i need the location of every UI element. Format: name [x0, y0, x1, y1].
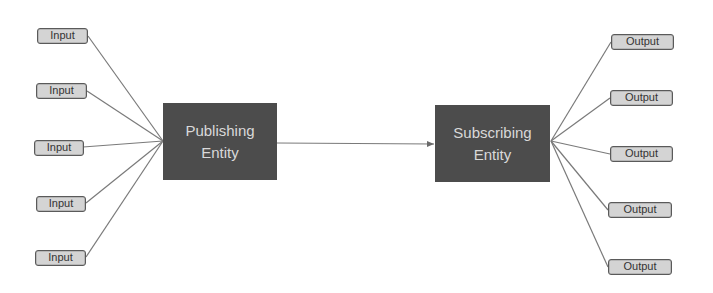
output-node-2: Output	[610, 90, 673, 106]
input-node-1: Input	[37, 28, 88, 44]
subscribing-entity: Subscribing Entity	[435, 105, 550, 182]
input-node-4: Input	[36, 196, 86, 212]
input-label: Input	[48, 251, 72, 263]
output-node-5: Output	[608, 259, 672, 275]
output-connector	[551, 42, 611, 141]
input-node-5: Input	[35, 250, 86, 266]
connector-lines	[0, 0, 713, 293]
input-connector	[87, 91, 163, 141]
input-label: Input	[49, 197, 73, 209]
output-node-4: Output	[608, 202, 672, 218]
diagram-canvas: Input Input Input Input Input Publishing…	[0, 0, 713, 293]
input-node-3: Input	[34, 140, 84, 156]
input-connector	[88, 36, 163, 141]
subscriber-label-line2: Entity	[474, 144, 512, 166]
input-connector	[86, 141, 163, 257]
output-connector	[551, 141, 608, 267]
output-label: Output	[623, 203, 656, 215]
publishing-entity: Publishing Entity	[163, 103, 277, 180]
output-node-3: Output	[610, 146, 673, 162]
input-label: Input	[47, 141, 71, 153]
output-label: Output	[626, 35, 659, 47]
publisher-label-line1: Publishing	[185, 120, 254, 142]
input-connector	[86, 141, 163, 203]
input-label: Input	[50, 29, 74, 41]
output-label: Output	[623, 260, 656, 272]
input-node-2: Input	[36, 83, 87, 99]
output-label: Output	[625, 91, 658, 103]
output-node-1: Output	[611, 34, 674, 50]
publish-arrow	[277, 143, 434, 144]
subscriber-label-line1: Subscribing	[453, 122, 531, 144]
input-label: Input	[49, 84, 73, 96]
publisher-label-line2: Entity	[201, 142, 239, 164]
output-label: Output	[625, 147, 658, 159]
output-connector	[551, 98, 610, 141]
input-connector	[83, 141, 163, 147]
